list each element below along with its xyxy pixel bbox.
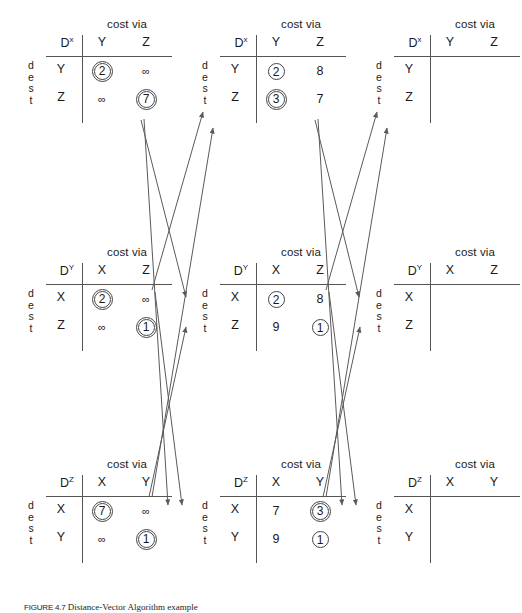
cost-via-label: cost via — [428, 458, 522, 470]
row-header-1: X — [220, 290, 250, 304]
row-header-2: Z — [394, 90, 424, 104]
row-header-2: Y — [394, 530, 424, 544]
table-cell — [476, 529, 512, 549]
table-cell: ∞ — [84, 529, 120, 549]
table-header-row: DZXY — [24, 475, 174, 494]
table-cell — [432, 289, 468, 309]
table-cell: ∞ — [84, 317, 120, 337]
table-cell: 1 — [302, 317, 338, 337]
row-header-2: Z — [394, 318, 424, 332]
row-header-1: X — [220, 502, 250, 516]
column-header-2: Y — [128, 475, 164, 489]
table-cell: 3 — [258, 89, 294, 109]
column-divider — [430, 475, 431, 563]
table-header-row: DZXY — [372, 475, 522, 494]
table-node-label: DY — [52, 263, 82, 278]
row-header-1: X — [394, 290, 424, 304]
column-header-2: Z — [476, 263, 512, 277]
table-cell — [476, 317, 512, 337]
table-cell — [476, 89, 512, 109]
routing-table-dx-t2: cost viaDxYZdestYZ — [372, 18, 522, 123]
dest-axis-label: dest — [198, 288, 212, 334]
routing-table-dx-t0: cost viaDxYZdestYZ2∞∞7 — [24, 18, 174, 123]
table-cell — [432, 61, 468, 81]
table-cell: ∞ — [128, 501, 164, 521]
table-cell: 1 — [302, 529, 338, 549]
table-cell: 2 — [84, 289, 120, 309]
table-cell: 9 — [258, 529, 294, 549]
cost-via-label: cost via — [254, 18, 348, 30]
table-header-row: DxYZ — [24, 35, 174, 54]
table-node-label: DY — [226, 263, 256, 278]
column-divider — [82, 263, 83, 351]
table-cell: 2 — [84, 61, 120, 81]
table-cell — [476, 289, 512, 309]
table-header-row: DYXZ — [24, 263, 174, 282]
row-header-2: Z — [46, 318, 76, 332]
table-cell: 3 — [302, 501, 338, 521]
cost-via-label: cost via — [80, 246, 174, 258]
routing-table-dz-t2: cost viaDZXYdestXY — [372, 458, 522, 563]
routing-table-dx-t1: cost viaDxYZdestYZ2837 — [198, 18, 348, 123]
table-cell — [476, 501, 512, 521]
routing-table-dz-t0: cost viaDZXYdestXY7∞∞1 — [24, 458, 174, 563]
column-header-1: Y — [432, 35, 468, 49]
row-header-1: Y — [220, 62, 250, 76]
table-cell: 1 — [128, 529, 164, 549]
cost-via-label: cost via — [428, 18, 522, 30]
row-header-1: Y — [46, 62, 76, 76]
table-header-row: DZXY — [198, 475, 348, 494]
header-divider — [220, 56, 346, 57]
dest-axis-label: dest — [24, 60, 38, 106]
routing-table-dy-t2: cost viaDYXZdestXZ — [372, 246, 522, 351]
row-header-1: X — [46, 290, 76, 304]
header-divider — [394, 284, 520, 285]
column-header-2: Y — [302, 475, 338, 489]
column-header-2: Z — [302, 263, 338, 277]
table-node-label: Dx — [400, 35, 430, 50]
table-cell: 7 — [258, 501, 294, 521]
dest-axis-label: dest — [372, 60, 386, 106]
table-cell: 7 — [302, 89, 338, 109]
row-header-1: Y — [394, 62, 424, 76]
column-divider — [82, 35, 83, 123]
header-divider — [220, 284, 346, 285]
cost-via-label: cost via — [254, 458, 348, 470]
column-header-1: X — [84, 475, 120, 489]
row-header-2: Z — [46, 90, 76, 104]
table-node-label: Dx — [226, 35, 256, 50]
cost-via-label: cost via — [254, 246, 348, 258]
column-header-1: X — [258, 263, 294, 277]
table-cell: 2 — [258, 289, 294, 309]
table-cell: 2 — [258, 61, 294, 81]
table-node-label: DZ — [52, 475, 82, 490]
table-node-label: Dx — [52, 35, 82, 50]
row-header-2: Z — [220, 90, 250, 104]
dest-axis-label: dest — [372, 288, 386, 334]
table-header-row: DYXZ — [198, 263, 348, 282]
column-divider — [430, 263, 431, 351]
table-node-label: DZ — [226, 475, 256, 490]
table-cell — [432, 89, 468, 109]
dest-axis-label: dest — [198, 500, 212, 546]
routing-table-dz-t1: cost viaDZXYdestXY7391 — [198, 458, 348, 563]
table-cell: ∞ — [128, 61, 164, 81]
table-cell: ∞ — [84, 89, 120, 109]
column-divider — [430, 35, 431, 123]
header-divider — [46, 284, 172, 285]
table-cell — [432, 501, 468, 521]
row-header-2: Y — [220, 530, 250, 544]
column-header-2: Z — [128, 35, 164, 49]
column-header-1: X — [432, 475, 468, 489]
table-header-row: DxYZ — [372, 35, 522, 54]
column-header-1: Y — [84, 35, 120, 49]
column-header-1: X — [432, 263, 468, 277]
table-cell: 1 — [128, 317, 164, 337]
table-cell: 7 — [84, 501, 120, 521]
table-cell — [432, 529, 468, 549]
routing-table-dy-t1: cost viaDYXZdestXZ2891 — [198, 246, 348, 351]
header-divider — [46, 496, 172, 497]
table-cell — [432, 317, 468, 337]
row-header-2: Z — [220, 318, 250, 332]
